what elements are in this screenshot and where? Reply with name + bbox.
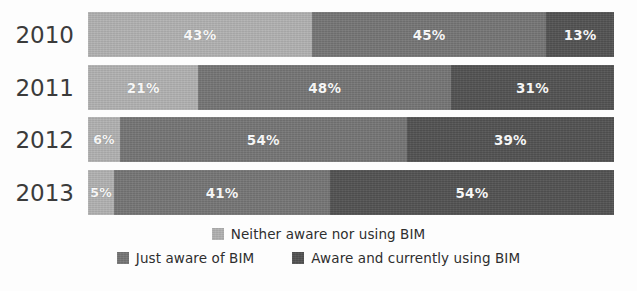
year-label-2010: 2010 <box>0 12 88 57</box>
bar-segment-value: 41% <box>206 185 239 201</box>
bar-track-2010: 43% 45% 13% <box>88 12 614 57</box>
legend-row-2: Just aware of BIM Aware and currently us… <box>0 250 637 266</box>
bar-track-2013: 5% 41% 54% <box>88 170 614 215</box>
bar-segment-using-2010[interactable]: 13% <box>546 12 614 57</box>
bar-row-2012: 2012 6% 54% 39% <box>0 117 637 162</box>
bar-segment-value: 48% <box>308 80 341 96</box>
bar-row-2010: 2010 43% 45% 13% <box>0 12 637 57</box>
bar-segment-value: 43% <box>184 27 217 43</box>
bar-segment-neither-2011[interactable]: 21% <box>88 65 198 110</box>
bar-segment-using-2011[interactable]: 31% <box>451 65 614 110</box>
bar-segment-aware-2010[interactable]: 45% <box>312 12 546 57</box>
legend-swatch-icon <box>117 252 129 264</box>
bar-segment-neither-2013[interactable]: 5% <box>88 170 114 215</box>
legend-swatch-icon <box>292 252 304 264</box>
legend-label: Neither aware nor using BIM <box>231 226 426 242</box>
bar-segment-value: 39% <box>494 132 527 148</box>
stacked-bar-chart: 2010 43% 45% 13% 2011 21% <box>0 0 637 291</box>
plot-area: 2010 43% 45% 13% 2011 21% <box>0 0 637 222</box>
legend-label: Aware and currently using BIM <box>311 250 520 266</box>
bar-segment-value: 6% <box>93 132 115 147</box>
legend-item-currently-using[interactable]: Aware and currently using BIM <box>292 250 520 266</box>
year-label-2013: 2013 <box>0 170 88 215</box>
legend-label: Just aware of BIM <box>136 250 255 266</box>
year-label-2012: 2012 <box>0 117 88 162</box>
bar-segment-aware-2012[interactable]: 54% <box>120 117 407 162</box>
bar-segment-using-2012[interactable]: 39% <box>407 117 614 162</box>
bar-segment-aware-2011[interactable]: 48% <box>198 65 450 110</box>
bar-segment-value: 54% <box>247 132 280 148</box>
bar-segment-value: 5% <box>90 185 112 200</box>
bar-track-2012: 6% 54% 39% <box>88 117 614 162</box>
legend-row-1: Neither aware nor using BIM <box>0 226 637 242</box>
bar-segment-using-2013[interactable]: 54% <box>330 170 614 215</box>
bar-segment-neither-2012[interactable]: 6% <box>88 117 120 162</box>
bar-row-2011: 2011 21% 48% 31% <box>0 65 637 110</box>
year-label-2011: 2011 <box>0 65 88 110</box>
bar-segment-value: 45% <box>413 27 446 43</box>
bar-segment-neither-2010[interactable]: 43% <box>88 12 312 57</box>
bar-segment-value: 31% <box>516 80 549 96</box>
bar-segment-value: 13% <box>564 27 597 43</box>
legend-item-neither[interactable]: Neither aware nor using BIM <box>212 226 426 242</box>
bar-segment-aware-2013[interactable]: 41% <box>114 170 330 215</box>
bar-segment-value: 21% <box>127 80 160 96</box>
bar-track-2011: 21% 48% 31% <box>88 65 614 110</box>
legend-item-just-aware[interactable]: Just aware of BIM <box>117 250 255 266</box>
bar-segment-value: 54% <box>456 185 489 201</box>
legend-swatch-icon <box>212 228 224 240</box>
bar-row-2013: 2013 5% 41% 54% <box>0 170 637 215</box>
chart-legend: Neither aware nor using BIM Just aware o… <box>0 222 637 266</box>
